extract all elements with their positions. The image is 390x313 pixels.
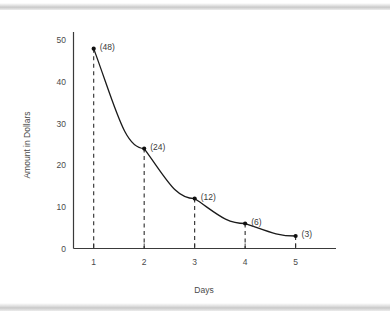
axes-group (74, 32, 337, 249)
x-tick-label-group: 12345 (91, 257, 298, 267)
y-tick-label: 10 (57, 202, 67, 212)
bottom-divider-band (0, 303, 390, 311)
data-point-label: (12) (201, 192, 216, 202)
x-tick-label: 4 (243, 257, 248, 267)
x-tick-label: 2 (142, 257, 147, 267)
data-point-label: (6) (251, 217, 262, 227)
dropline-group (94, 49, 296, 249)
data-point-marker (243, 221, 247, 225)
y-tick-label: 30 (57, 119, 67, 129)
data-point-marker (92, 47, 96, 51)
data-point-marker (294, 234, 298, 238)
line-chart: 01020304050 12345 (48)(24)(12)(6)(3) Day… (0, 10, 390, 303)
y-tick-label: 20 (57, 160, 67, 170)
y-axis-title: Amount in Dollars (22, 111, 32, 178)
data-point-marker (193, 196, 197, 200)
y-tick-label: 0 (61, 244, 66, 254)
y-tick-label: 40 (57, 77, 67, 87)
data-point-label-group: (48)(24)(12)(6)(3) (100, 42, 312, 239)
x-tick-label: 5 (293, 257, 298, 267)
x-tick-label: 1 (91, 257, 96, 267)
x-tick-label: 3 (192, 257, 197, 267)
x-axis-title: Days (194, 285, 213, 295)
data-point-label: (24) (150, 142, 165, 152)
chart-plot-area: 01020304050 12345 (48)(24)(12)(6)(3) Day… (0, 10, 390, 303)
y-tick-label-group: 01020304050 (57, 35, 67, 253)
data-point-marker (142, 146, 146, 150)
top-divider-band (0, 3, 390, 10)
data-point-label: (3) (302, 229, 313, 239)
y-tick-label: 50 (57, 35, 67, 45)
figure-canvas: 01020304050 12345 (48)(24)(12)(6)(3) Day… (0, 0, 390, 313)
data-point-label: (48) (100, 42, 115, 52)
